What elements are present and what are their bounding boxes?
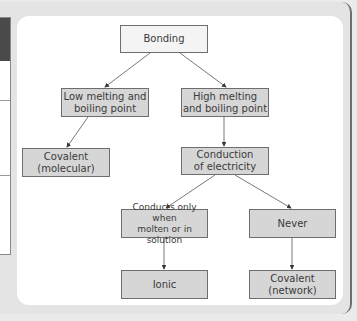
node-label: Conducts only when molten or in solution (122, 202, 207, 246)
node-conduction-of-electricity: Conduction of electricity (181, 147, 269, 175)
node-label: Never (278, 218, 308, 230)
node-conducts-when-molten: Conducts only when molten or in solution (121, 209, 208, 238)
node-label: Bonding (143, 33, 184, 45)
node-label: Ionic (153, 279, 177, 291)
node-label: High melting and boiling point (183, 91, 267, 115)
node-ionic: Ionic (121, 270, 208, 299)
node-covalent-network: Covalent (network) (249, 270, 336, 299)
node-high-melting-point: High melting and boiling point (181, 88, 269, 117)
node-low-melting-point: Low melting and boiling point (61, 88, 149, 117)
node-bonding: Bonding (120, 25, 208, 53)
node-never: Never (249, 209, 336, 238)
node-label: Covalent (network) (268, 273, 316, 297)
node-label: Low melting and boiling point (64, 91, 147, 115)
node-label: Covalent (molecular) (37, 151, 94, 175)
node-label: Conduction of electricity (194, 149, 256, 173)
node-covalent-molecular: Covalent (molecular) (22, 148, 110, 177)
